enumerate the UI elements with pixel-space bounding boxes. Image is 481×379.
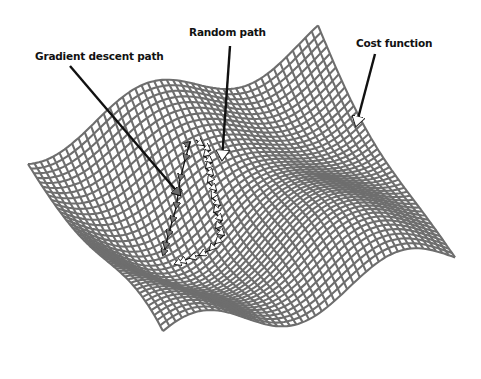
mesh-line (318, 25, 455, 257)
random-path-label: Random path (189, 26, 266, 38)
gradient-descent-path-label: Gradient descent path (35, 50, 164, 62)
cost-function-diagram: Gradient descent path Random path Cost f… (0, 0, 481, 379)
cost-function-label: Cost function (356, 37, 432, 49)
cost-arrow (356, 54, 375, 126)
wireframe-grid (28, 25, 455, 331)
